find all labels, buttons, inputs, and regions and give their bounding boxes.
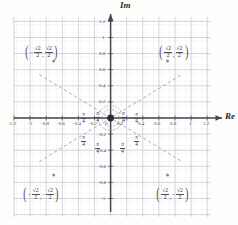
x-tick-label: 0.6 [154,121,160,126]
fraction-y-q4: √2 2 [176,188,184,201]
fraction-x-q1: √2 2 [164,46,172,59]
fraction-x-q3: √2 2 [32,188,40,201]
point-label-q1: ( √2 2 , √2 2 ) [158,44,189,60]
fraction-y-q1: √2 2 [176,46,184,59]
fraction-pi-over-4: π 4 [120,142,125,154]
data-point-q4 [166,173,169,176]
fraction-pi-over-4: π 4 [95,111,100,123]
sign-x-q2: − [30,49,33,55]
data-point-q3 [52,173,55,176]
fraction-pi-over-4: π 4 [134,135,139,147]
angle-label-2: π 4 [134,103,139,124]
fraction-pi-over-4: π 4 [121,111,126,123]
y-tick-label: -1 [101,196,105,201]
y-tick-label: 1 [102,35,105,40]
x-tick-label-origin: 0 [105,121,108,126]
fraction-x-q2: √2 2 [34,46,42,59]
x-tick-label: -0.6 [57,121,65,126]
point-label-q3: ( − √2 2 , − √2 2 ) [22,186,60,202]
x-tick-label: -0.8 [41,121,49,126]
angle-label-4: π 4 [81,103,86,124]
point-label-q4: ( √2 2 , − √2 2 ) [155,186,190,202]
fraction-x-q4: √2 2 [161,188,169,201]
fraction-pi-over-4: π 4 [81,112,86,124]
fraction-pi-over-4: π 4 [134,112,139,124]
angle-label-5: π 4 [81,126,86,147]
y-tick-label: 0.4 [99,83,105,88]
y-tick-label: 1.2 [99,19,105,24]
y-tick-label: -0.8 [98,180,106,185]
y-tick-label: -0.6 [98,164,106,169]
angle-label-3: π 4 [95,102,100,123]
origin-marker [107,115,114,122]
y-axis-label: Im [120,1,131,10]
x-tick-label: 0.8 [170,121,176,126]
x-tick-label: -0.4 [73,121,81,126]
fraction-pi-over-4: π 4 [95,142,100,154]
x-axis-label: Re [225,112,235,121]
x-tick-label: 1 [189,121,192,126]
y-tick-label: 0.6 [99,67,105,72]
angle-label-1: π 4 [121,102,126,123]
sign-y-q4: − [172,191,175,197]
x-tick-label: 1.2 [203,121,209,126]
y-tick-label: 0.8 [99,51,105,56]
x-axis-arrow [216,115,223,121]
angle-label-8: π 4 [134,126,139,147]
sign-y-q3: − [42,191,45,197]
angle-label-6: π 4 [95,133,100,154]
sign-x-q3: − [28,191,31,197]
comma: , [173,52,175,58]
point-label-q2: ( − √2 2 , √2 2 ) [24,44,59,60]
argand-diagram-figure: Im Re -1.2 -1 -0.8 -0.6 -0.4 -0.2 0 0.2 … [0,0,238,225]
comma: , [42,52,44,58]
fraction-pi-over-4: π 4 [81,135,86,147]
fraction-y-q2: √2 2 [45,46,53,59]
fraction-y-q3: √2 2 [46,188,54,201]
x-tick-label: -1.2 [8,121,16,126]
x-tick-label: -1 [28,121,32,126]
angle-label-7: π 4 [120,133,125,154]
data-point-q1 [166,60,169,63]
